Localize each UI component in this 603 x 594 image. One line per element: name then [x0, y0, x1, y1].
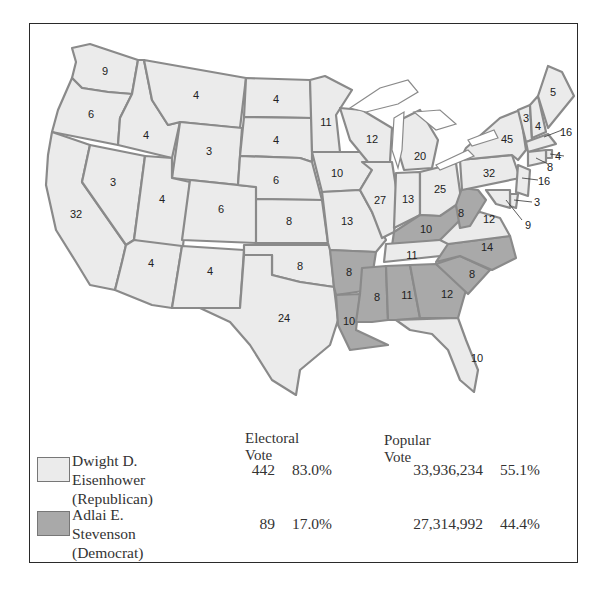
lake-superior [350, 80, 418, 112]
label-oh: 25 [434, 183, 446, 195]
label-vt: 3 [523, 112, 529, 124]
candidate-name: Dwight D. Eisenhower [72, 451, 153, 489]
label-va: 12 [483, 213, 495, 225]
label-me: 5 [550, 86, 556, 98]
democrat-swatch [37, 511, 70, 536]
label-mt: 4 [193, 89, 199, 101]
label-ms: 8 [374, 291, 380, 303]
label-ga: 12 [441, 288, 453, 300]
eisenhower-ev: 442 [240, 461, 275, 479]
label-nm: 4 [207, 265, 213, 277]
label-sd: 4 [273, 134, 279, 146]
eisenhower-label: Dwight D. Eisenhower (Republican) [72, 451, 153, 508]
label-ct: 8 [547, 161, 553, 173]
stevenson-label: Adlai E. Stevenson (Democrat) [72, 505, 143, 562]
candidate-party: (Democrat) [72, 543, 143, 562]
state-az [115, 240, 182, 308]
stevenson-pv: 27,314,992 [395, 515, 483, 533]
label-wi: 12 [366, 133, 378, 145]
label-ny: 45 [501, 133, 513, 145]
state-nj [516, 165, 530, 196]
label-il: 27 [374, 194, 386, 206]
stevenson-ev-pct: 17.0% [282, 515, 332, 533]
state-ms [356, 266, 388, 322]
state-fl [396, 318, 478, 392]
state-md [486, 190, 510, 208]
eisenhower-ev-pct: 83.0% [282, 461, 332, 479]
label-ri: 4 [555, 150, 561, 162]
label-ne: 6 [273, 174, 279, 186]
label-al: 11 [401, 289, 412, 301]
label-az: 4 [148, 257, 154, 269]
republican-swatch [37, 457, 70, 482]
eisenhower-pv-pct: 55.1% [492, 461, 540, 479]
label-md: 9 [525, 219, 531, 231]
label-pa: 32 [483, 167, 495, 179]
eisenhower-pv: 33,936,234 [395, 461, 483, 479]
electoral-vote-header: Electoral Vote [245, 430, 299, 464]
label-ar: 8 [346, 266, 352, 278]
state-nm [172, 246, 244, 308]
label-nc: 14 [481, 241, 493, 253]
label-wv: 8 [458, 207, 464, 219]
label-ia: 10 [331, 167, 343, 179]
label-ok: 8 [297, 260, 303, 272]
label-in: 13 [402, 193, 414, 205]
label-ks: 8 [286, 215, 292, 227]
stevenson-pv-pct: 44.4% [492, 515, 540, 533]
state-ct [528, 150, 546, 166]
label-sc: 8 [469, 268, 475, 280]
label-de: 3 [534, 196, 540, 208]
label-id: 4 [143, 129, 149, 141]
label-nv: 3 [110, 176, 116, 188]
label-or: 6 [88, 108, 94, 120]
label-mo: 13 [341, 215, 353, 227]
label-ut: 4 [159, 193, 165, 205]
label-fl: 10 [471, 352, 483, 364]
label-mi: 20 [414, 150, 426, 162]
label-ma: 16 [560, 126, 572, 138]
label-nj: 16 [538, 175, 550, 187]
label-wy: 3 [206, 145, 212, 157]
label-mn: 11 [320, 116, 331, 128]
label-ca: 32 [70, 208, 82, 220]
label-nd: 4 [273, 93, 279, 105]
candidate-name: Adlai E. Stevenson [72, 505, 143, 543]
stevenson-ev: 89 [240, 515, 275, 533]
label-nh: 4 [535, 120, 541, 132]
label-wa: 9 [102, 65, 108, 77]
label-la: 10 [343, 315, 355, 327]
label-tx: 24 [278, 312, 290, 324]
label-tn: 11 [406, 249, 417, 261]
label-co: 6 [218, 203, 224, 215]
label-ky: 10 [420, 223, 432, 235]
